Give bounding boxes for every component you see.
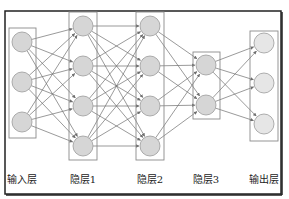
- neural-network-diagram: 输入层 隐层1 隐层2 隐层3 输出层: [0, 0, 289, 199]
- edge-hidden3-to-output: [216, 108, 254, 120]
- edge-input-to-hidden1: [31, 86, 72, 102]
- edge-hidden2-to-hidden3: [160, 65, 195, 66]
- label-hidden-layer-3: 隐层3: [193, 174, 219, 185]
- layer-boxes: [9, 12, 278, 160]
- layer-labels: 输入层 隐层1 隐层2 隐层3 输出层: [7, 173, 279, 185]
- edge-input-to-hidden1: [31, 46, 72, 62]
- label-hidden-layer-2: 隐层2: [137, 174, 163, 185]
- neuron-input-1: [12, 32, 32, 52]
- neuron-input-2: [12, 72, 32, 92]
- neuron-hidden1-4: [73, 136, 93, 156]
- neuron-hidden2-3: [140, 96, 160, 116]
- label-hidden-layer-1: 隐层1: [70, 174, 96, 185]
- edge-hidden3-to-output: [216, 68, 254, 80]
- edge-input-to-hidden1: [32, 29, 73, 40]
- neuron-output-3: [254, 114, 274, 134]
- neuron-hidden2-1: [140, 16, 160, 36]
- neuron-output-2: [254, 73, 274, 93]
- neuron-hidden2-4: [140, 136, 160, 156]
- connection-edges: [27, 26, 256, 146]
- label-output-layer: 输出层: [249, 173, 279, 185]
- neuron-hidden2-2: [140, 56, 160, 76]
- neuron-output-1: [254, 33, 274, 53]
- neuron-input-3: [12, 112, 32, 132]
- neuron-hidden3-2: [196, 95, 216, 115]
- neuron-hidden1-2: [73, 56, 93, 76]
- label-input-layer: 输入层: [7, 173, 37, 185]
- neuron-hidden3-1: [196, 55, 216, 75]
- neuron-nodes: [12, 16, 274, 156]
- neuron-hidden1-1: [73, 16, 93, 36]
- edge-hidden3-to-output: [215, 47, 253, 62]
- edge-input-to-hidden1: [31, 126, 72, 142]
- neuron-hidden1-3: [73, 96, 93, 116]
